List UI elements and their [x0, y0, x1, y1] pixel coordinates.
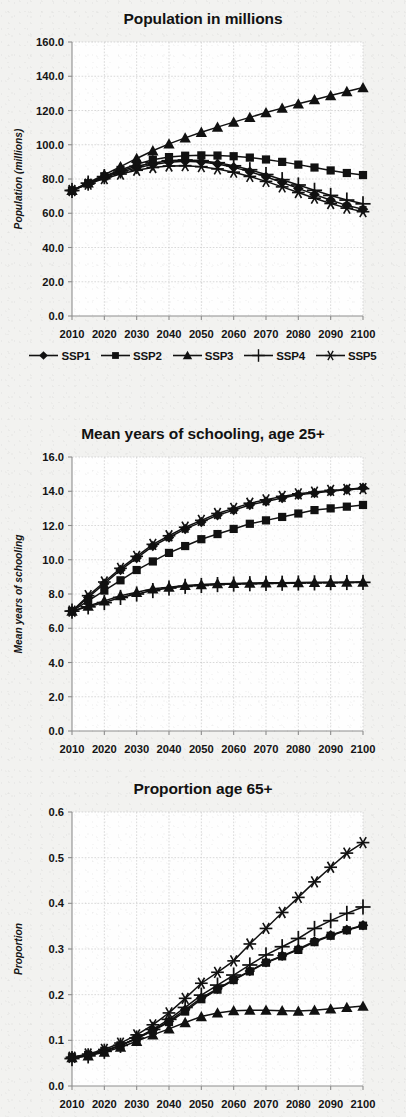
figure-page: Population in millions 0.020.040.060.080…	[0, 0, 406, 1117]
svg-text:2020: 2020	[92, 328, 117, 340]
svg-text:2080: 2080	[286, 743, 311, 755]
svg-text:2100: 2100	[351, 1098, 376, 1110]
svg-text:2010: 2010	[60, 1098, 85, 1110]
svg-text:2100: 2100	[351, 743, 376, 755]
svg-text:2030: 2030	[124, 1098, 149, 1110]
svg-text:4.0: 4.0	[48, 657, 64, 669]
svg-text:0.0: 0.0	[48, 1080, 64, 1092]
svg-text:2090: 2090	[318, 328, 343, 340]
svg-text:Population (millions): Population (millions)	[13, 128, 24, 229]
svg-text:2050: 2050	[189, 1098, 214, 1110]
chart-title-schooling: Mean years of schooling, age 25+	[0, 425, 406, 443]
svg-text:20.0: 20.0	[42, 276, 64, 288]
svg-text:0.3: 0.3	[48, 943, 64, 955]
svg-text:2.0: 2.0	[48, 691, 64, 703]
svg-text:160.0: 160.0	[36, 36, 64, 48]
svg-text:80.0: 80.0	[42, 173, 64, 185]
chart-legend: SSP1SSP2SSP3SSP4SSP5	[0, 348, 406, 363]
svg-text:14.0: 14.0	[42, 485, 64, 497]
svg-text:0.4: 0.4	[48, 897, 64, 909]
chart-panel-population: Population in millions 0.020.040.060.080…	[0, 10, 406, 363]
square-marker-icon	[101, 348, 130, 363]
legend-item-ssp3[interactable]: SSP3	[173, 348, 234, 363]
svg-text:2060: 2060	[221, 743, 246, 755]
svg-text:8.0: 8.0	[48, 588, 64, 600]
svg-text:2090: 2090	[318, 743, 343, 755]
svg-text:2060: 2060	[221, 328, 246, 340]
svg-text:2080: 2080	[286, 328, 311, 340]
svg-text:2080: 2080	[286, 1098, 311, 1110]
svg-text:40.0: 40.0	[42, 242, 64, 254]
svg-text:2050: 2050	[189, 743, 214, 755]
svg-text:2040: 2040	[157, 328, 182, 340]
svg-text:2100: 2100	[351, 328, 376, 340]
svg-text:2030: 2030	[124, 743, 149, 755]
svg-text:Mean years of schooling: Mean years of schooling	[13, 534, 24, 654]
chart-title-proportion65: Proportion age 65+	[0, 780, 406, 798]
proportion65-line-chart: 0.00.10.20.30.40.50.62010202020302040205…	[0, 798, 406, 1116]
svg-text:140.0: 140.0	[36, 70, 64, 82]
triangle-marker-icon	[173, 348, 202, 363]
population-line-chart: 0.020.040.060.080.0100.0120.0140.0160.02…	[0, 28, 406, 346]
svg-text:0.5: 0.5	[48, 852, 64, 864]
svg-text:16.0: 16.0	[42, 451, 64, 463]
legend-label: SSP1	[61, 350, 90, 362]
legend-label: SSP4	[276, 350, 305, 362]
legend-label: SSP3	[205, 350, 234, 362]
schooling-line-chart: 0.02.04.06.08.010.012.014.016.0201020202…	[0, 443, 406, 761]
plus-marker-icon	[244, 348, 273, 363]
legend-label: SSP5	[348, 350, 377, 362]
svg-text:0.6: 0.6	[48, 806, 64, 818]
svg-text:0.0: 0.0	[48, 725, 64, 737]
svg-text:60.0: 60.0	[42, 207, 64, 219]
svg-text:0.1: 0.1	[48, 1034, 64, 1046]
svg-text:2010: 2010	[60, 743, 85, 755]
svg-text:120.0: 120.0	[36, 105, 64, 117]
svg-text:10.0: 10.0	[42, 554, 64, 566]
svg-text:2070: 2070	[254, 328, 279, 340]
legend-label: SSP2	[133, 350, 162, 362]
svg-text:2070: 2070	[254, 743, 279, 755]
svg-text:0.0: 0.0	[48, 310, 64, 322]
plot-area-population: 0.020.040.060.080.0100.0120.0140.0160.02…	[0, 28, 406, 346]
svg-text:2090: 2090	[318, 1098, 343, 1110]
svg-text:2010: 2010	[60, 328, 85, 340]
svg-text:2070: 2070	[254, 1098, 279, 1110]
chart-title-population: Population in millions	[0, 10, 406, 28]
plot-area-schooling: 0.02.04.06.08.010.012.014.016.0201020202…	[0, 443, 406, 761]
svg-text:Proportion: Proportion	[13, 923, 24, 975]
svg-text:12.0: 12.0	[42, 520, 64, 532]
svg-text:6.0: 6.0	[48, 622, 64, 634]
svg-text:0.2: 0.2	[48, 989, 64, 1001]
svg-text:2030: 2030	[124, 328, 149, 340]
chart-panel-proportion65: Proportion age 65+ 0.00.10.20.30.40.50.6…	[0, 780, 406, 1116]
svg-text:2060: 2060	[221, 1098, 246, 1110]
asterisk-marker-icon	[316, 348, 345, 363]
diamond-marker-icon	[29, 348, 58, 363]
svg-text:2020: 2020	[92, 1098, 117, 1110]
plot-area-proportion65: 0.00.10.20.30.40.50.62010202020302040205…	[0, 798, 406, 1116]
chart-panel-schooling: Mean years of schooling, age 25+ 0.02.04…	[0, 425, 406, 761]
svg-text:2040: 2040	[157, 743, 182, 755]
legend-item-ssp1[interactable]: SSP1	[29, 348, 90, 363]
svg-text:2020: 2020	[92, 743, 117, 755]
svg-text:100.0: 100.0	[36, 139, 64, 151]
legend-item-ssp5[interactable]: SSP5	[316, 348, 377, 363]
svg-text:2040: 2040	[157, 1098, 182, 1110]
legend-item-ssp4[interactable]: SSP4	[244, 348, 305, 363]
legend-item-ssp2[interactable]: SSP2	[101, 348, 162, 363]
svg-text:2050: 2050	[189, 328, 214, 340]
